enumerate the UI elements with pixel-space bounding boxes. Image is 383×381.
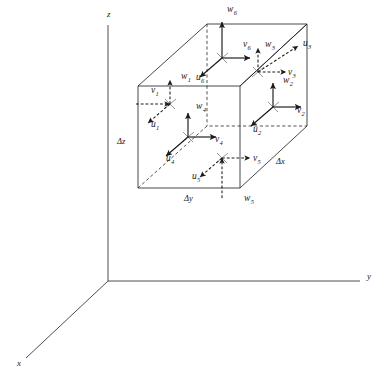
node-2-v2-label-subscript: 2 xyxy=(302,110,306,117)
node-4-v4-label: v4 xyxy=(215,134,224,146)
node-5-w5-label-subscript: 5 xyxy=(251,198,255,205)
node-1-v1-label-subscript: 1 xyxy=(156,90,159,97)
node-5 xyxy=(200,153,250,198)
delta-z-label: Δz xyxy=(116,136,126,146)
node-5-u5-label: u5 xyxy=(192,171,201,183)
node-4-u4-label-subscript: 4 xyxy=(171,158,175,165)
node-1-u1-label-subscript: 1 xyxy=(156,124,159,131)
node-1-w1-label-subscript: 1 xyxy=(188,76,191,83)
node-4-w4-label-subscript: 4 xyxy=(203,106,207,113)
x-axis xyxy=(26,281,108,358)
control-volume-diagram: zyx w1v1u1w2v2u2w3v3u3w4v4u4w5v5u5w6v6u6… xyxy=(0,0,383,381)
node-2 xyxy=(251,83,301,126)
x-axis-label: x xyxy=(16,358,21,368)
delta-x-label: Δx xyxy=(275,156,285,166)
node-5-v5-label: v5 xyxy=(253,153,262,165)
node-2-v2-label: v2 xyxy=(297,105,306,117)
node-6 xyxy=(200,22,250,77)
node-5-u5-label-subscript: 5 xyxy=(197,176,201,183)
node-6-w6-label: w6 xyxy=(227,4,238,16)
node-6-u6-arrow xyxy=(200,58,222,77)
node-4-v4-label-subscript: 4 xyxy=(220,139,224,146)
node-6-v6-label: v6 xyxy=(243,39,252,51)
node-3-v3-label-subscript: 3 xyxy=(292,72,297,79)
node-3-u3-label-subscript: 3 xyxy=(307,43,312,50)
node-4 xyxy=(166,113,216,156)
node-1 xyxy=(136,80,176,123)
node-5-v5-label-subscript: 5 xyxy=(258,158,262,165)
node-6-w6-label-subscript: 6 xyxy=(234,9,238,16)
node-4-w4-label: w4 xyxy=(196,101,207,113)
node-3-w3-label: w3 xyxy=(265,39,276,51)
figure-canvas: zyx w1v1u1w2v2u2w3v3u3w4v4u4w5v5u5w6v6u6… xyxy=(0,0,383,381)
z-axis-label: z xyxy=(106,9,111,19)
node-5-w5-label: w5 xyxy=(244,193,255,205)
nodal-velocity-vectors xyxy=(136,22,301,198)
node-2-u2-label-subscript: 2 xyxy=(258,129,262,136)
node-1-v1-label: v1 xyxy=(151,85,159,97)
delta-y-label: Δy xyxy=(183,193,193,203)
node-3-w3-label-subscript: 3 xyxy=(271,44,276,51)
node-6-v6-label-subscript: 6 xyxy=(248,44,252,51)
node-6-u6-label-subscript: 6 xyxy=(201,77,205,84)
node-3-v3-label: v3 xyxy=(288,67,297,79)
node-1-w1-label: w1 xyxy=(181,71,191,83)
node-3-u3-label: u3 xyxy=(303,38,312,50)
diagram-labels: w1v1u1w2v2u2w3v3u3w4v4u4w5v5u5w6v6u6ΔzΔy… xyxy=(116,4,312,205)
y-axis-label: y xyxy=(366,271,371,281)
node-2-w2-label-subscript: 2 xyxy=(290,80,294,87)
coordinate-axes: zyx xyxy=(16,9,371,368)
node-1-u1-label: u1 xyxy=(151,119,159,131)
node-4-u4-label: u4 xyxy=(166,153,175,165)
